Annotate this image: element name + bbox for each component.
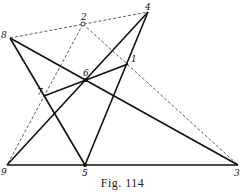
point-label-6: 6 (83, 68, 89, 78)
point-label-7: 7 (37, 87, 43, 97)
point-label-2: 2 (80, 12, 87, 22)
dashed-line-2-3 (83, 24, 238, 165)
point-5 (83, 163, 87, 167)
point-label-8: 8 (1, 30, 7, 40)
point-6 (84, 78, 88, 82)
solid-line-8-3 (10, 38, 238, 165)
point-label-4: 4 (144, 2, 151, 12)
point-2 (81, 22, 85, 26)
point-label-1: 1 (131, 54, 137, 64)
figure-diagram: 123456789 (0, 0, 245, 195)
figure-caption: Fig. 114 (0, 176, 245, 191)
solid-line-8-5 (10, 38, 85, 165)
